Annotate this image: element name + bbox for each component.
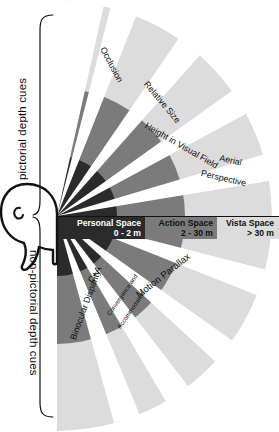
bracket-label-pictorial: pictorial depth cues <box>16 78 28 180</box>
depth-cue-fan-diagram: Personal Space 0 - 2 m Action Space 2 - … <box>0 0 279 432</box>
diagram-canvas: Personal Space 0 - 2 m Action Space 2 - … <box>0 0 279 432</box>
ring-label-personal-name: Personal Space <box>77 218 141 228</box>
ring-label-vista-range: > 30 m <box>247 228 274 238</box>
ring-label-personal-range: 0 - 2 m <box>114 228 142 238</box>
ring-label-action-range: 2 - 30 m <box>181 228 213 238</box>
ring-label-vista-name: Vista Space <box>226 218 274 228</box>
bracket-label-non-pictorial: non-pictorial depth cues <box>28 250 40 376</box>
ring-label-action-name: Action Space <box>159 218 214 228</box>
